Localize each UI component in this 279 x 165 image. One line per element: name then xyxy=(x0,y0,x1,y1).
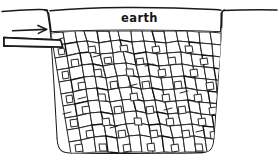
stone xyxy=(147,143,155,151)
stone xyxy=(195,144,203,151)
flow-arrow-group xyxy=(13,25,47,33)
stone xyxy=(150,130,158,138)
stone xyxy=(171,144,179,152)
stone xyxy=(78,82,86,90)
stone xyxy=(166,118,174,126)
stone xyxy=(136,58,144,65)
flow-arrow-shaft xyxy=(13,29,46,30)
stone xyxy=(114,106,122,114)
stone xyxy=(126,69,134,76)
stone xyxy=(134,118,142,125)
stone xyxy=(178,106,186,114)
stone xyxy=(200,58,208,65)
stone xyxy=(158,69,166,77)
stone xyxy=(123,144,131,152)
stone xyxy=(146,106,154,114)
stone xyxy=(212,44,221,57)
stone xyxy=(120,45,128,52)
stones-clipped-group xyxy=(46,28,226,156)
rubble-stone-fill xyxy=(46,28,226,156)
stone xyxy=(162,94,170,102)
stone xyxy=(142,81,150,89)
stone xyxy=(187,31,200,43)
stone xyxy=(102,118,110,126)
stone xyxy=(200,43,213,56)
stone xyxy=(185,46,193,53)
inlet-pipe-overlay xyxy=(4,38,63,48)
stone xyxy=(104,57,112,64)
stone xyxy=(190,69,198,77)
stone xyxy=(168,57,176,65)
stone xyxy=(194,94,202,102)
stone xyxy=(182,130,190,138)
stone xyxy=(212,115,221,128)
stone xyxy=(88,46,96,53)
stone xyxy=(110,81,118,89)
stone xyxy=(75,144,83,152)
stone xyxy=(71,59,79,67)
stone xyxy=(210,32,221,45)
ground-line-right xyxy=(224,10,277,11)
stone xyxy=(98,94,106,101)
stone xyxy=(58,48,65,55)
stone xyxy=(94,69,102,77)
stone xyxy=(66,95,73,103)
stone xyxy=(152,46,160,53)
stone xyxy=(118,130,126,138)
stone xyxy=(174,81,182,89)
stone xyxy=(99,144,107,151)
earth-label: earth xyxy=(0,12,279,24)
stone xyxy=(206,82,214,90)
stone xyxy=(198,118,206,126)
stone xyxy=(130,93,138,101)
stone xyxy=(215,139,221,151)
stone xyxy=(70,119,78,127)
stone xyxy=(86,130,94,138)
drainage-pit-figure: earth xyxy=(0,0,279,165)
stone xyxy=(62,71,69,79)
stone xyxy=(82,106,90,114)
